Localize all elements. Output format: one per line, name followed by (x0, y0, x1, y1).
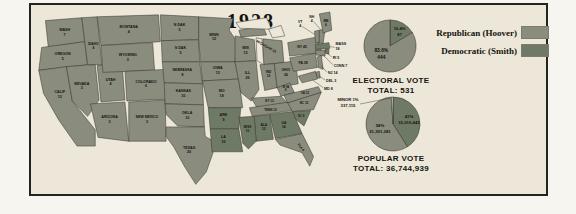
state-label-tenn: TENN 12 (264, 108, 277, 112)
legend-label-republican: Republican (Hoover) (421, 28, 517, 38)
state-nj (317, 55, 323, 69)
legend-row-republican: Republican (Hoover) (421, 26, 549, 39)
legend-swatch-democratic (521, 44, 549, 57)
legend-label-democratic: Democratic (Smith) (421, 46, 517, 56)
popular-vote-title: POPULAR VOTE (327, 154, 455, 164)
legend: Republican (Hoover) Democratic (Smith) (421, 26, 549, 57)
state-label-pa: PA 38 (298, 61, 307, 65)
state-label-ky: KY 13 (265, 99, 274, 103)
state-label-mass: MASS18 (336, 43, 347, 52)
great-lake (236, 18, 271, 29)
electoral-vote-title: ELECTORAL VOTE (329, 76, 453, 86)
state-minn (199, 17, 237, 62)
state-conn (315, 50, 325, 56)
state-label-sc: SC 9 (298, 114, 305, 118)
state-fla (275, 134, 313, 167)
state-label-la: LA10 (221, 135, 226, 144)
legend-swatch-republican (521, 26, 549, 39)
state-label-nj: NJ 14 (328, 71, 338, 75)
state-vt (315, 30, 320, 42)
popular-vote-total: TOTAL: 36,744,939 (327, 164, 455, 174)
state-label-ny: NY 45 (297, 45, 307, 49)
atlas-page: 1928 WASH7OREGON5CALIF13IDAHO4NEVADA3UTA… (0, 0, 576, 214)
popular-label-minor: MINOR 1%337,115 (337, 97, 358, 108)
legend-row-democratic: Democratic (Smith) (421, 44, 549, 57)
popular-vote-caption: POPULAR VOTE TOTAL: 36,744,939 (327, 154, 455, 175)
state-la (210, 129, 243, 152)
state-label-conn: CONN 7 (334, 64, 348, 68)
great-lake (269, 25, 285, 37)
electoral-vote-pie-chart: 16.4%8783.6%444 (361, 17, 419, 75)
popular-vote-pie-chart: 41%15,016,44358%21,391,381MINOR 1%337,11… (333, 93, 425, 153)
us-states-map: WASH7OREGON5CALIF13IDAHO4NEVADA3UTAH4MON… (33, 11, 349, 193)
state-label-va: VA 12 (301, 91, 309, 95)
state-label-ri: RI 5 (333, 56, 340, 60)
election-1928-panel: 1928 WASH7OREGON5CALIF13IDAHO4NEVADA3UTA… (29, 3, 548, 196)
state-tex (166, 127, 213, 184)
state-label-nc: NC 12 (300, 101, 309, 105)
